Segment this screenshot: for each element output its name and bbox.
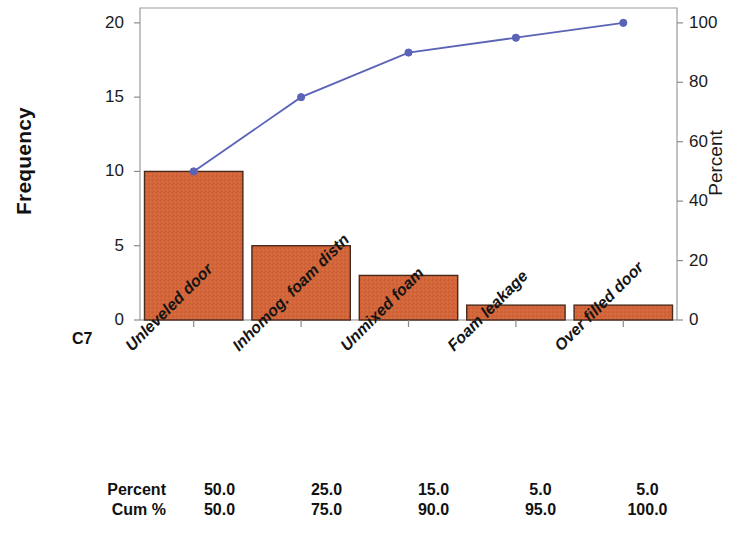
- table-cell: 90.0: [380, 500, 487, 520]
- table-cell: 50.0: [166, 500, 273, 520]
- pareto-chart: Frequency Percent C7 05101520 0204060801…: [0, 0, 731, 546]
- y-axis-left-tick-label: 5: [84, 237, 124, 254]
- table-cell: 15.0: [380, 480, 487, 500]
- line-marker: [620, 19, 627, 26]
- bar-series: [145, 171, 673, 320]
- cumulative-percent-line: [190, 19, 627, 175]
- y-axis-left-tick-label: 15: [84, 88, 124, 105]
- table-cell: 25.0: [273, 480, 380, 500]
- y-axis-right-tick-label: 100: [689, 14, 729, 31]
- table-cell: 100.0: [594, 500, 701, 520]
- line-marker: [512, 34, 519, 41]
- pareto-data-table: Percent50.025.015.05.05.0Cum %50.075.090…: [0, 480, 731, 520]
- y-axis-left-tick-label: 20: [84, 14, 124, 31]
- table-row-label: Cum %: [6, 500, 166, 520]
- table-row: Percent50.025.015.05.05.0: [6, 480, 701, 500]
- table-row-label: Percent: [6, 480, 166, 500]
- table-cell: 75.0: [273, 500, 380, 520]
- y-axis-left-tick-label: 0: [84, 311, 124, 328]
- line-marker: [405, 49, 412, 56]
- y-axis-right-tick-label: 60: [689, 133, 729, 150]
- line-marker: [190, 168, 197, 175]
- table-cell: 5.0: [487, 480, 594, 500]
- y-axis-right-tick-label: 20: [689, 252, 729, 269]
- table-row: Cum %50.075.090.095.0100.0: [6, 500, 701, 520]
- y-axis-right-tick-label: 0: [689, 311, 729, 328]
- table-cell: 5.0: [594, 480, 701, 500]
- line-marker: [298, 94, 305, 101]
- table-cell: 50.0: [166, 480, 273, 500]
- y-axis-left-tick-label: 10: [84, 162, 124, 179]
- table-cell: 95.0: [487, 500, 594, 520]
- y-axis-right-tick-label: 40: [689, 192, 729, 209]
- bar: [145, 171, 243, 320]
- y-axis-right-tick-label: 80: [689, 73, 729, 90]
